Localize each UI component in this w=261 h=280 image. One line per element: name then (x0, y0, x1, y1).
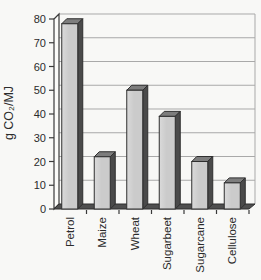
bar-group-petrol (62, 19, 83, 209)
axis-wall (54, 14, 59, 209)
bar-side-cellulose (240, 178, 245, 209)
bar-side-sugarcane (208, 157, 213, 210)
y-tick-label-50: 50 (34, 84, 46, 96)
y-axis-title: g CO₂/MJ (2, 86, 16, 140)
bar-petrol (62, 24, 78, 209)
y-tick-label-0: 0 (40, 203, 46, 215)
bar-sugarcane (192, 162, 208, 210)
bar-wheat (127, 90, 143, 209)
x-label-cellulose: Cellulose (226, 217, 238, 264)
bar-group-sugarcane (192, 157, 213, 210)
figure: 01020304050607080PetrolMaizeWheatSugarbe… (0, 0, 261, 280)
x-label-wheat: Wheat (129, 216, 141, 250)
bar-side-petrol (78, 19, 83, 209)
bar-maize (94, 157, 110, 209)
bar-side-wheat (143, 85, 148, 209)
bar-chart-svg: 01020304050607080PetrolMaizeWheatSugarbe… (0, 0, 261, 280)
bar-side-sugarbeet (175, 111, 180, 209)
x-label-sugarcane: Sugarcane (194, 217, 206, 273)
bar-group-wheat (127, 85, 148, 209)
bar-group-sugarbeet (159, 111, 180, 209)
bar-group-cellulose (224, 178, 245, 209)
x-label-sugarbeet: Sugarbeet (161, 216, 173, 270)
y-tick-label-60: 60 (34, 61, 46, 73)
bar-cellulose (224, 183, 240, 209)
y-tick-label-40: 40 (34, 108, 46, 120)
x-label-maize: Maize (96, 217, 108, 248)
bar-group-maize (94, 152, 115, 209)
y-tick-label-20: 20 (34, 156, 46, 168)
bar-side-maize (110, 152, 115, 209)
y-tick-label-10: 10 (34, 179, 46, 191)
y-tick-label-30: 30 (34, 132, 46, 144)
bar-sugarbeet (159, 116, 175, 209)
y-tick-label-70: 70 (34, 37, 46, 49)
y-tick-label-80: 80 (34, 13, 46, 25)
x-label-petrol: Petrol (64, 217, 76, 247)
